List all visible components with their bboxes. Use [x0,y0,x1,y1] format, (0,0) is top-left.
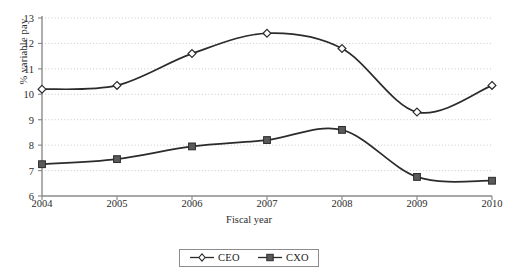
data-point-ceo[interactable] [188,50,196,58]
data-point-ceo[interactable] [263,29,271,37]
data-point-ceo[interactable] [113,81,121,89]
data-point-cxo[interactable] [264,137,271,144]
series-line-ceo [42,33,492,113]
data-point-cxo[interactable] [39,161,46,168]
data-point-cxo[interactable] [339,126,346,133]
data-point-ceo[interactable] [413,108,421,116]
chart-legend: CEO CXO [179,249,319,267]
data-point-cxo[interactable] [489,177,496,184]
data-point-cxo[interactable] [114,156,121,163]
data-point-ceo[interactable] [338,45,346,53]
legend-label-ceo: CEO [218,252,240,263]
data-point-ceo[interactable] [488,81,496,89]
data-point-ceo[interactable] [38,85,46,93]
data-point-cxo[interactable] [189,143,196,150]
legend-item-ceo[interactable]: CEO [189,252,240,263]
legend-item-cxo[interactable]: CXO [257,252,309,263]
legend-label-cxo: CXO [286,252,309,263]
data-point-cxo[interactable] [414,174,421,181]
legend-marker-filled-square-icon [257,252,283,263]
legend-marker-open-diamond-icon [189,252,215,263]
